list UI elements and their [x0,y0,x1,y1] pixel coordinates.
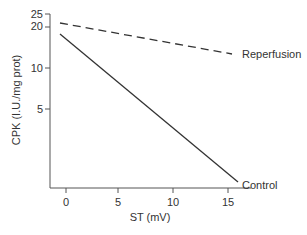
reperfusion-label: Reperfusion [242,48,301,60]
y-tick-label-20: 20 [31,20,43,32]
reperfusion-line [60,23,232,54]
x-tick-label-10: 10 [167,196,179,208]
y-tick-label-10: 10 [31,62,43,74]
x-tick-label-15: 15 [222,196,234,208]
control-line [60,34,238,182]
x-axis-label: ST (mV) [130,211,171,223]
y-tick-label-25: 25 [31,8,43,20]
y-axis-label: CPK (I.U./mg prot) [10,55,22,145]
y-tick-label-5: 5 [37,103,43,115]
x-tick-label-0: 0 [63,196,69,208]
x-tick-label-5: 5 [115,196,121,208]
control-label: Control [242,179,277,191]
chart: 25 20 10 5 0 5 10 15 ST (mV) CPK (I.U./m… [0,0,307,235]
